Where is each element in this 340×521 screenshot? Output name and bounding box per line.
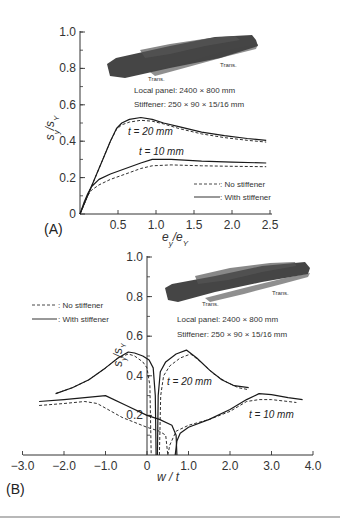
series-line <box>157 350 248 455</box>
y-tick-label: 1.0 <box>126 250 143 264</box>
series-line <box>175 394 302 455</box>
y-tick-label: 0.4 <box>59 134 76 148</box>
panel-b-legend: : No stiffener : With stiffener <box>32 301 109 324</box>
legend-dashed-label: : No stiffener <box>58 301 104 310</box>
x-tick-label: −3.0 <box>11 459 35 473</box>
panel-a-x-ticks: 0.51.01.52.02.5 <box>110 210 279 232</box>
y-tick-label: 1.0 <box>59 25 76 39</box>
legend-dashed-label: : No stiffener <box>220 180 266 189</box>
y-tick-label: 0.8 <box>59 61 76 75</box>
panel-b-annot-stiffener: Stiffener: 250 × 90 × 15/16 mm <box>177 330 287 339</box>
panel-b-label-t10: t = 10 mm <box>249 409 294 420</box>
panel-a-trans-left: Trans. <box>148 76 165 82</box>
panel-a-x-label: ey/eY <box>162 230 189 248</box>
legend-solid-label: : With stiffener <box>58 315 109 324</box>
panel-b-annot-panel: Local panel: 2400 × 800 mm <box>177 315 279 324</box>
x-tick-label: 4.0 <box>305 459 322 473</box>
panel-b-mesh-illustration <box>165 262 310 302</box>
x-tick-label: 2.0 <box>222 459 239 473</box>
panel-a-label: (A) <box>44 221 63 237</box>
panel-a-label-t10: t = 10 mm <box>139 146 184 157</box>
legend-solid-label: : With stiffener <box>220 193 271 202</box>
panel-a-y-label: sy/sY <box>43 115 61 140</box>
y-tick-label: 0.6 <box>59 98 76 112</box>
x-tick-label: −2.0 <box>52 459 76 473</box>
panel-a-label-t20: t = 20 mm <box>128 126 173 137</box>
panel-b-curves <box>39 350 303 455</box>
x-tick-label: 2.5 <box>262 218 279 232</box>
figure: 00.20.40.60.81.0 0.51.01.52.02.5 sy/sY e… <box>0 0 340 521</box>
panel-a-annot-stiffener: Stiffener: 250 × 90 × 15/16 mm <box>134 100 244 109</box>
panel-a-y-ticks: 00.20.40.60.81.0 <box>59 25 85 221</box>
x-tick-label: 0.5 <box>110 218 127 232</box>
panel-a-mesh-illustration <box>107 35 258 78</box>
panel-b: 0.20.40.60.81.0 −3.0−2.0−1.001.02.03.04.… <box>6 250 322 497</box>
panel-b-x-label: w / t <box>157 470 180 484</box>
panel-b-trans-left: Trans. <box>202 301 219 307</box>
y-tick-label: 0.6 <box>126 329 143 343</box>
x-tick-label: 1.5 <box>186 218 203 232</box>
x-tick-label: 0 <box>144 459 151 473</box>
panel-b-trans-right: Trans. <box>272 290 289 296</box>
x-tick-label: 1.0 <box>180 459 197 473</box>
series-line <box>39 402 168 456</box>
y-tick-label: 0.8 <box>126 290 143 304</box>
y-tick-label: 0.2 <box>59 171 76 185</box>
series-line <box>80 165 266 214</box>
panel-b-label: (B) <box>6 481 25 497</box>
panel-a-annot-panel: Local panel: 2400 × 800 mm <box>134 86 236 95</box>
panel-a-legend: : No stiffener : With stiffener <box>194 180 271 202</box>
panel-a: 00.20.40.60.81.0 0.51.01.52.02.5 sy/sY e… <box>43 25 279 248</box>
bottom-divider <box>0 516 340 518</box>
y-tick-label: 0.2 <box>126 408 143 422</box>
x-tick-label: 2.0 <box>224 218 241 232</box>
series-line <box>159 354 248 455</box>
panel-b-label-t20: t = 20 mm <box>167 376 212 387</box>
x-tick-label: 3.0 <box>263 459 280 473</box>
panel-a-trans-right: Trans. <box>220 62 237 68</box>
x-tick-label: −1.0 <box>94 459 118 473</box>
y-tick-label: 0 <box>69 207 76 221</box>
y-tick-label: 0.4 <box>126 369 143 383</box>
